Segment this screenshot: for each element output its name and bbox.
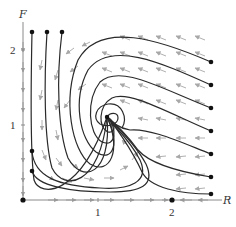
equilibrium-prey-only (169, 197, 174, 202)
phase-portrait: F R 1 2 1 2 (0, 0, 236, 227)
equilibrium-spiral-sink (105, 115, 109, 119)
initial-points (30, 30, 214, 197)
y-tick-1: 1 (10, 119, 16, 131)
y-tick-2: 2 (10, 44, 16, 56)
x-axis-label: R (222, 194, 231, 207)
direction-field (23, 36, 208, 200)
x-tick-2: 2 (169, 206, 175, 218)
x-tick-1: 1 (95, 206, 101, 218)
y-axis-label: F (18, 8, 27, 21)
equilibrium-points (20, 115, 174, 203)
equilibrium-origin (20, 197, 25, 202)
